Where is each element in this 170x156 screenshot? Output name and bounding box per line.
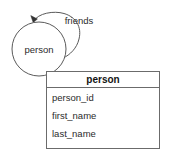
table-row-last-name: last_name	[52, 128, 96, 139]
friends-loop-path-left	[34, 12, 65, 21]
table-title-person: person	[86, 74, 119, 85]
table-row-first-name: first_name	[52, 110, 96, 121]
relationship-label-friends: friends	[65, 15, 94, 26]
er-diagram-canvas: friends person person person_id first_na…	[0, 0, 170, 156]
table-row-person-id: person_id	[52, 92, 94, 103]
diagram-svg: friends person person person_id first_na…	[0, 0, 170, 156]
entity-label-person: person	[24, 44, 53, 55]
friends-loop-arrowhead	[31, 16, 38, 23]
